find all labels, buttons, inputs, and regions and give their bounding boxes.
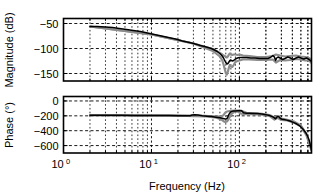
frequency-tick-exponent: 0 bbox=[66, 157, 70, 166]
magnitude-ytick-label: −100 bbox=[34, 43, 59, 55]
magnitude-ytick-label: −50 bbox=[40, 18, 59, 30]
frequency-tick-label: 10 bbox=[51, 158, 63, 170]
frequency-axis-label: Frequency (Hz) bbox=[149, 180, 225, 192]
phase-axis-label: Phase (°) bbox=[3, 102, 15, 148]
frequency-tick-exponent: 1 bbox=[154, 157, 158, 166]
phase-ytick-label: −200 bbox=[34, 110, 59, 122]
phase-ytick-label: −400 bbox=[34, 125, 59, 137]
phase-ytick-label: −600 bbox=[34, 140, 59, 152]
bode-plot-figure: −50−100−150 Magnitude (dB) 0−200−400−600… bbox=[0, 0, 323, 196]
bode-plot-svg: −50−100−150 Magnitude (dB) 0−200−400−600… bbox=[0, 0, 323, 196]
frequency-tick-exponent: 2 bbox=[242, 157, 246, 166]
magnitude-axis-label: Magnitude (dB) bbox=[3, 12, 15, 87]
frequency-tick-label: 10 bbox=[139, 158, 151, 170]
frequency-tick-label: 10 bbox=[227, 158, 239, 170]
phase-ytick-label: 0 bbox=[52, 95, 58, 107]
magnitude-ytick-label: −150 bbox=[34, 68, 59, 80]
